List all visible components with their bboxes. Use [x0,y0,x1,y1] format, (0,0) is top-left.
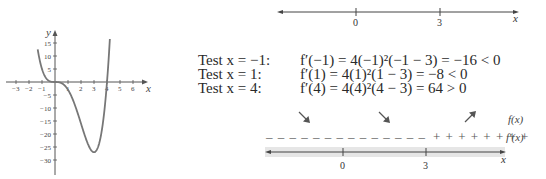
graph-x-label: x [145,82,151,94]
fprime-label: f′(x) [506,131,524,144]
graph-y-label: y [45,26,51,38]
f-label: f(x) [508,113,524,126]
y-tick-label: −20 [40,131,51,139]
test-label: Test x = 4: [198,81,300,96]
y-axis-arrow-icon [53,30,58,36]
point-label-0: 0 [353,17,358,28]
y-tick-label: −15 [40,118,51,126]
sign-interval-1: – – – – – – – [265,129,344,144]
point-label-3: 3 [423,160,428,171]
y-tick-label: 5 [48,66,52,74]
decreasing-arrow-icon [299,112,310,123]
point-label-3: 3 [437,17,442,28]
function-graph: −3−2−1123456 15105−5−10−15−20−25−30 x y [6,26,151,175]
y-tick-label: 15 [44,40,52,48]
sign-chart: f(x) – – – – – – – – – – – – – – + + + +… [265,111,529,171]
x-tick-label: −3 [12,85,20,93]
y-ticks: 15105−5−10−15−20−25−30 [40,40,57,165]
top-number-line: 0 3 x [277,8,519,28]
y-tick-label: −5 [44,92,52,100]
decreasing-arrow-icon [379,112,390,123]
y-tick-label: 10 [44,53,52,61]
x-tick-label: 3 [92,85,96,93]
test-row: Test x = 4:f′(4) = 4(4)²(4 − 3) = 64 > 0 [198,81,467,96]
sign-chart-var: x [500,153,506,165]
x-tick-label: −2 [25,85,33,93]
y-tick-label: −25 [40,144,51,152]
y-tick-label: −30 [40,157,51,165]
x-tick-label: 2 [79,85,83,93]
x-tick-label: 5 [118,85,122,93]
increasing-arrow-icon [465,111,476,122]
sign-interval-2: – – – – – – – [347,129,426,144]
x-tick-label: 6 [131,85,135,93]
y-tick-label: −10 [40,105,51,113]
point-label-0: 0 [340,160,345,171]
test-expression: f′(4) = 4(4)²(4 − 3) = 64 > 0 [300,81,467,96]
number-line-var: x [512,12,518,24]
left-arrow-icon [277,10,283,14]
